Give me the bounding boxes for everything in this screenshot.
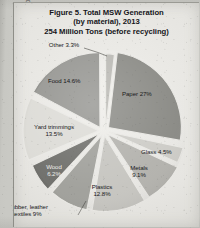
slice-label-food: Food 14.6% bbox=[48, 77, 80, 84]
slice-label-plastics-value: 12.8% bbox=[81, 190, 123, 197]
figure-panel: Figure 5. Total MSW Generation (by mater… bbox=[13, 2, 199, 227]
figure-title-line-3: 254 Million Tons (before recycling) bbox=[14, 27, 199, 36]
slice-label-rubber-line-1: Rubber, leather bbox=[13, 203, 48, 210]
slice-label-yard-line-2: 13.5% bbox=[23, 130, 85, 137]
slice-label-yard-trimmings: Yard trimmings 13.5% bbox=[23, 123, 85, 137]
slice-label-metals: Metals 9.1% bbox=[120, 164, 158, 178]
slice-label-other: Other 3.3% bbox=[38, 41, 90, 48]
slice-label-metals-value: 9.1% bbox=[120, 171, 158, 178]
slice-label-wood-value: 6.2% bbox=[39, 170, 69, 177]
figure-screenshot: Source: EPA, U.S. Environmental Protecti… bbox=[0, 0, 200, 228]
figure-title-line-1: Figure 5. Total MSW Generation bbox=[14, 8, 199, 17]
slice-label-yard-line-1: Yard trimmings bbox=[23, 123, 85, 130]
slice-label-rubber-line-2: & textiles 9% bbox=[13, 210, 48, 217]
slice-label-rubber-leather-textiles: Rubber, leather & textiles 9% bbox=[13, 203, 48, 217]
slice-label-glass: Glass 4.5% bbox=[141, 148, 172, 155]
figure-title-line-2: (by material), 2013 bbox=[14, 17, 199, 26]
slice-label-wood-name: Wood bbox=[39, 163, 69, 170]
slice-label-wood: Wood 6.2% bbox=[39, 163, 69, 177]
figure-title: Figure 5. Total MSW Generation (by mater… bbox=[14, 8, 199, 36]
slice-label-plastics: Plastics 12.8% bbox=[81, 183, 123, 197]
slice-label-metals-name: Metals bbox=[120, 164, 158, 171]
slice-label-paper: Paper 27% bbox=[122, 90, 152, 97]
slice-label-plastics-name: Plastics bbox=[81, 183, 123, 190]
pie-chart: Other 3.3% Paper 27% Glass 4.5% Metals 9… bbox=[14, 37, 199, 227]
